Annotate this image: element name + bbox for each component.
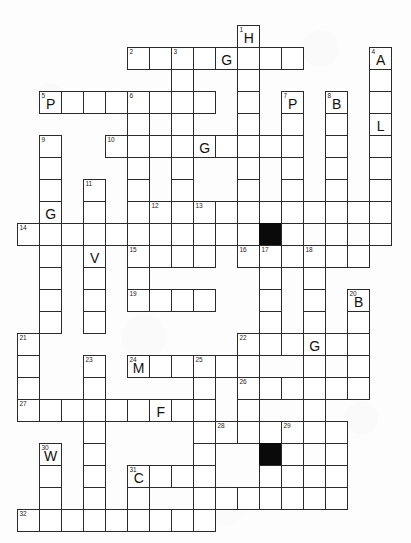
- crossword-cell[interactable]: [193, 421, 216, 444]
- crossword-cell[interactable]: [193, 91, 216, 114]
- crossword-cell[interactable]: [237, 201, 260, 224]
- crossword-cell[interactable]: [303, 355, 326, 378]
- crossword-cell[interactable]: [171, 69, 194, 92]
- crossword-cell[interactable]: [193, 487, 216, 510]
- crossword-cell[interactable]: [281, 245, 304, 268]
- crossword-cell[interactable]: [259, 201, 282, 224]
- crossword-cell[interactable]: [39, 487, 62, 510]
- crossword-cell[interactable]: 30W: [39, 443, 62, 466]
- crossword-cell[interactable]: [83, 443, 106, 466]
- crossword-cell[interactable]: [171, 465, 194, 488]
- crossword-cell[interactable]: 13: [193, 201, 216, 224]
- crossword-cell[interactable]: [281, 487, 304, 510]
- crossword-cell[interactable]: [61, 509, 84, 532]
- crossword-cell[interactable]: [237, 47, 260, 70]
- crossword-cell[interactable]: [237, 355, 260, 378]
- crossword-cell[interactable]: [61, 91, 84, 114]
- crossword-cell[interactable]: [127, 179, 150, 202]
- crossword-cell[interactable]: [237, 135, 260, 158]
- crossword-cell[interactable]: 31C: [127, 465, 150, 488]
- crossword-cell[interactable]: [369, 69, 392, 92]
- crossword-cell[interactable]: [83, 509, 106, 532]
- crossword-cell[interactable]: G: [215, 47, 238, 70]
- crossword-cell[interactable]: 27: [17, 399, 40, 422]
- crossword-cell[interactable]: [281, 47, 304, 70]
- crossword-cell[interactable]: [237, 113, 260, 136]
- crossword-cell[interactable]: 1H: [237, 25, 260, 48]
- crossword-cell[interactable]: [105, 91, 128, 114]
- crossword-cell[interactable]: [303, 311, 326, 334]
- crossword-cell[interactable]: [369, 223, 392, 246]
- crossword-cell[interactable]: [193, 377, 216, 400]
- crossword-cell[interactable]: [105, 223, 128, 246]
- crossword-cell[interactable]: L: [369, 113, 392, 136]
- crossword-cell[interactable]: [193, 289, 216, 312]
- crossword-cell[interactable]: [303, 399, 326, 422]
- crossword-cell[interactable]: 16: [237, 245, 260, 268]
- crossword-cell[interactable]: [127, 201, 150, 224]
- crossword-cell[interactable]: [127, 399, 150, 422]
- crossword-cell[interactable]: [281, 333, 304, 356]
- crossword-cell[interactable]: 21: [17, 333, 40, 356]
- crossword-cell[interactable]: [39, 179, 62, 202]
- crossword-cell[interactable]: 2: [127, 47, 150, 70]
- crossword-cell[interactable]: [237, 487, 260, 510]
- crossword-cell[interactable]: 19: [127, 289, 150, 312]
- crossword-cell[interactable]: [347, 355, 370, 378]
- crossword-cell[interactable]: [171, 157, 194, 180]
- crossword-cell[interactable]: [171, 113, 194, 136]
- crossword-cell[interactable]: 32: [17, 509, 40, 532]
- crossword-cell[interactable]: [171, 245, 194, 268]
- crossword-cell[interactable]: [325, 201, 348, 224]
- crossword-cell[interactable]: 29: [281, 421, 304, 444]
- crossword-cell[interactable]: [83, 267, 106, 290]
- crossword-cell[interactable]: [259, 421, 282, 444]
- crossword-cell[interactable]: [325, 223, 348, 246]
- crossword-cell[interactable]: [237, 223, 260, 246]
- crossword-cell[interactable]: 24M: [127, 355, 150, 378]
- crossword-cell[interactable]: [303, 465, 326, 488]
- crossword-cell[interactable]: [215, 223, 238, 246]
- crossword-cell[interactable]: 25: [193, 355, 216, 378]
- crossword-cell[interactable]: [149, 47, 172, 70]
- crossword-cell[interactable]: [369, 135, 392, 158]
- crossword-cell[interactable]: 11: [83, 179, 106, 202]
- crossword-cell[interactable]: [259, 289, 282, 312]
- crossword-cell[interactable]: [369, 201, 392, 224]
- crossword-cell[interactable]: [325, 113, 348, 136]
- crossword-cell[interactable]: [61, 223, 84, 246]
- crossword-cell[interactable]: G: [303, 333, 326, 356]
- crossword-cell[interactable]: [193, 223, 216, 246]
- crossword-cell[interactable]: [347, 377, 370, 400]
- crossword-cell[interactable]: [83, 377, 106, 400]
- crossword-cell[interactable]: [215, 201, 238, 224]
- crossword-cell[interactable]: [171, 201, 194, 224]
- crossword-cell[interactable]: [193, 509, 216, 532]
- crossword-cell[interactable]: [325, 487, 348, 510]
- crossword-cell[interactable]: [149, 245, 172, 268]
- crossword-cell[interactable]: [149, 355, 172, 378]
- crossword-cell[interactable]: [83, 487, 106, 510]
- crossword-cell[interactable]: [193, 47, 216, 70]
- crossword-cell[interactable]: [237, 91, 260, 114]
- crossword-cell[interactable]: [215, 487, 238, 510]
- crossword-cell[interactable]: [325, 157, 348, 180]
- crossword-cell[interactable]: 10: [105, 135, 128, 158]
- crossword-cell[interactable]: [237, 399, 260, 422]
- crossword-cell[interactable]: [259, 465, 282, 488]
- crossword-cell[interactable]: [193, 245, 216, 268]
- crossword-cell[interactable]: [149, 289, 172, 312]
- crossword-cell[interactable]: [259, 47, 282, 70]
- crossword-cell[interactable]: [303, 487, 326, 510]
- crossword-cell[interactable]: 23: [83, 355, 106, 378]
- crossword-cell[interactable]: [325, 245, 348, 268]
- crossword-cell[interactable]: [149, 223, 172, 246]
- crossword-cell[interactable]: [281, 157, 304, 180]
- crossword-cell[interactable]: [347, 245, 370, 268]
- crossword-cell[interactable]: [171, 355, 194, 378]
- crossword-cell[interactable]: [83, 289, 106, 312]
- crossword-cell[interactable]: 17: [259, 245, 282, 268]
- crossword-cell[interactable]: [215, 135, 238, 158]
- crossword-cell[interactable]: [303, 421, 326, 444]
- crossword-cell[interactable]: [347, 311, 370, 334]
